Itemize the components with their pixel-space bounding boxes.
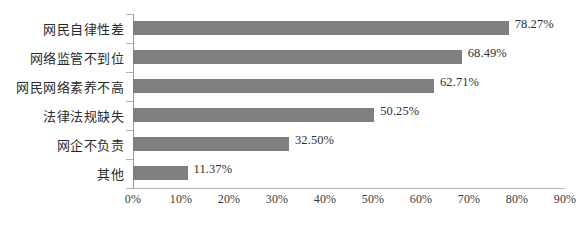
x-tick-label: 10% (170, 191, 193, 207)
plot-area: 78.27%68.49%62.71%50.25%32.50%11.37% (133, 14, 565, 188)
bar (133, 21, 509, 35)
y-axis-tick (126, 101, 133, 102)
bar (133, 50, 462, 64)
x-tick-label: 90% (554, 191, 577, 207)
bar-row: 32.50% (133, 130, 565, 159)
category-label: 网络监管不到位 (30, 43, 125, 72)
bar-value-label: 68.49% (468, 46, 507, 60)
x-tick-label: 30% (266, 191, 289, 207)
bar-value-label: 62.71% (440, 75, 479, 89)
y-axis-tick (126, 130, 133, 131)
bar-value-label: 32.50% (295, 133, 334, 147)
x-tick-label: 0% (125, 191, 141, 207)
bar (133, 166, 188, 180)
y-axis-tick (126, 72, 133, 73)
x-tick-label: 60% (410, 191, 433, 207)
x-tick-label: 20% (218, 191, 241, 207)
y-axis-tick (126, 159, 133, 160)
category-label: 法律法规缺失 (43, 101, 124, 130)
bar-row: 62.71% (133, 72, 565, 101)
y-axis-labels: 网民自律性差网络监管不到位网民网络素养不高法律法规缺失网企不负责其他 (0, 14, 124, 188)
y-axis-tick (126, 14, 133, 15)
x-axis-line (133, 188, 565, 189)
bar-row: 50.25% (133, 101, 565, 130)
bar-value-label: 50.25% (380, 104, 419, 118)
bar-row: 11.37% (133, 159, 565, 188)
x-tick-label: 40% (314, 191, 337, 207)
bar (133, 108, 374, 122)
x-tick-label: 50% (362, 191, 385, 207)
bar (133, 137, 289, 151)
category-label: 网民自律性差 (43, 14, 124, 43)
bar-row: 68.49% (133, 43, 565, 72)
bar-value-label: 78.27% (515, 17, 554, 31)
category-label: 网民网络素养不高 (16, 72, 124, 101)
category-label: 网企不负责 (57, 130, 125, 159)
y-axis-tick (126, 188, 133, 189)
bar (133, 79, 434, 93)
bar-value-label: 11.37% (194, 162, 233, 176)
y-axis-tick (126, 43, 133, 44)
x-tick-label: 70% (458, 191, 481, 207)
bar-row: 78.27% (133, 14, 565, 43)
category-label: 其他 (97, 159, 124, 188)
x-axis-tick-labels: 0%10%20%30%40%50%60%70%80%90% (133, 191, 565, 209)
x-tick-label: 80% (506, 191, 529, 207)
bar-chart: 网民自律性差网络监管不到位网民网络素养不高法律法规缺失网企不负责其他 78.27… (0, 0, 588, 228)
